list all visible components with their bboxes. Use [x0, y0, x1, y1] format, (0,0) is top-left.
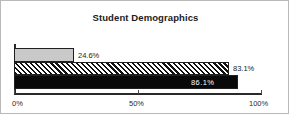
chart-container: Student Demographics 0% 50% 100% 24.6% 8… [0, 0, 289, 114]
bar-label-series-1: 24.6% [78, 51, 99, 60]
axis-tick-100 [261, 90, 262, 94]
bar-series-1 [14, 48, 74, 62]
bar-label-series-2: 83.1% [233, 64, 254, 73]
axis-tick-0 [14, 90, 15, 94]
axis-tick-label-0: 0% [12, 99, 23, 108]
axis-tick-label-100: 100% [249, 99, 268, 108]
axis-tick-label-50: 50% [129, 99, 144, 108]
plot-area: 0% 50% 100% 24.6% 83.1% 86.1% [1, 1, 289, 114]
axis-tick-50 [138, 90, 139, 94]
bar-label-series-3: 86.1% [191, 78, 214, 87]
bar-series-2 [14, 62, 229, 75]
